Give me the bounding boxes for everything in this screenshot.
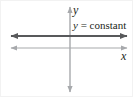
- line-equation-value: constant: [90, 19, 127, 31]
- x-axis-label: x: [121, 50, 126, 62]
- coordinate-plane-svg: [1, 1, 133, 97]
- graph-figure: y x y = constant: [0, 0, 133, 97]
- line-equation-label: y = constant: [73, 19, 126, 31]
- line-equation-operator: =: [78, 19, 90, 31]
- y-axis-label: y: [73, 4, 78, 16]
